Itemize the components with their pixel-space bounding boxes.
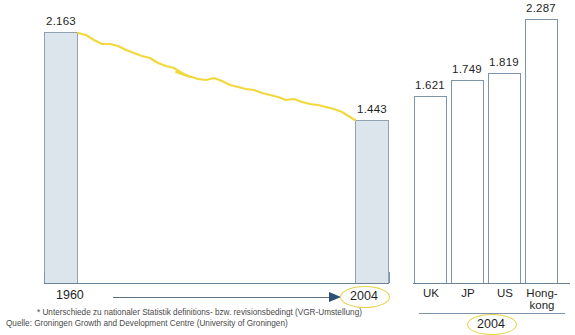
category-label-uk: UK [410, 288, 452, 300]
axis-tick-us-right [520, 272, 521, 283]
x-axis-left [44, 283, 389, 284]
axis-tick-uk-right [446, 272, 447, 283]
footnotes: * Unterschiede zu nationaler Statistik d… [0, 307, 575, 329]
category-label-jp: JP [447, 288, 489, 300]
footnote-definition: * Unterschiede zu nationaler Statistik d… [0, 307, 575, 318]
category-label-uk-text: UK [423, 287, 439, 299]
bar-hongkong [525, 19, 558, 284]
axis-tick-hongkong-left [525, 272, 526, 283]
axis-tick-jp-right [483, 272, 484, 283]
year-start-label: 1960 [56, 288, 84, 302]
x-axis-right [413, 283, 570, 284]
year-end-label: 2004 [340, 289, 388, 303]
axis-tick-left-end [389, 272, 390, 283]
category-label-us-text: US [497, 287, 513, 299]
bar-value-hongkong: 2.287 [508, 2, 574, 14]
axis-tick-left-start [44, 272, 45, 283]
category-label-jp-text: JP [461, 287, 474, 299]
bar-us [488, 73, 521, 284]
axis-tick-uk-left [414, 272, 415, 283]
bar-uk [414, 96, 447, 284]
bar-jp [451, 80, 484, 284]
axis-tick-us-left [488, 272, 489, 283]
footnote-source: Quelle: Groningen Growth and Development… [0, 318, 575, 329]
axis-tick-jp-left [451, 272, 452, 283]
category-label-hongkong-line1: Hong- [520, 288, 564, 300]
timeline-arrow-shaft [113, 297, 332, 298]
axis-tick-hongkong-right [557, 272, 558, 283]
